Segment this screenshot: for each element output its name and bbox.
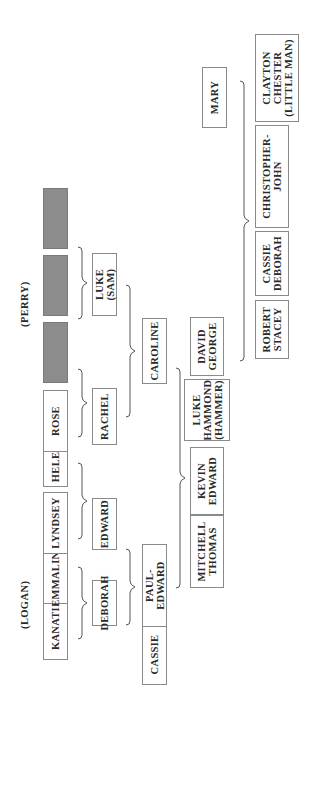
bracket-unknown2-unknown3 [78, 247, 87, 319]
bracket-david-mary [240, 81, 249, 361]
bracket-lyndsey-helen [78, 463, 87, 539]
family-tree-diagram: (LOGAN) (PERRY) KANATI EMMALINE LYNDSEY … [0, 0, 321, 801]
bracket-kanati-emmaline [78, 567, 87, 639]
bracket-rachel-luke [126, 285, 135, 417]
bracket-deborah-edward [126, 549, 135, 625]
bracket-paul-edward-caroline [176, 368, 185, 588]
bracket-rose-unknown1 [78, 369, 87, 437]
relationship-brackets [0, 0, 321, 801]
